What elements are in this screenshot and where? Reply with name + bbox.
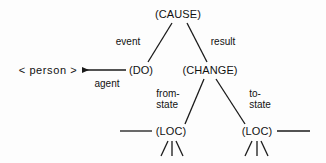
tick-loc-from-left (161, 141, 168, 156)
node-person: < person > (19, 64, 78, 76)
edge-label-to-state: to- state (249, 88, 271, 110)
edge-layer (0, 0, 326, 163)
edge-label-to-state-line2: state (249, 99, 271, 110)
edge-label-to-state-line1: to- (249, 88, 271, 99)
edge-label-from-state-line1: from- (156, 88, 179, 99)
node-cause: (CAUSE) (155, 8, 201, 20)
node-do: (DO) (129, 64, 153, 76)
tick-loc-from-right (176, 141, 183, 156)
edge-label-result-text: result (211, 36, 235, 47)
node-do-label: (DO) (129, 64, 153, 76)
edge-change-loc-to (216, 79, 245, 124)
edge-label-agent-text: agent (94, 78, 119, 89)
edge-cause-do (148, 23, 172, 62)
node-person-label: < person > (19, 64, 78, 76)
node-loc-from: (LOC) (156, 125, 186, 137)
edge-label-from-state-line2: state (156, 99, 179, 110)
edge-label-event-text: event (116, 36, 140, 47)
edge-label-agent: agent (94, 78, 119, 89)
node-cause-label: (CAUSE) (155, 8, 201, 20)
tick-loc-to-right (261, 141, 268, 156)
node-change-label: (CHANGE) (182, 64, 237, 76)
node-loc-to-label: (LOC) (242, 125, 272, 137)
edge-change-loc-from (185, 79, 204, 124)
conceptual-dependency-diagram: (CAUSE) (DO) (CHANGE) < person > (LOC) (… (0, 0, 326, 163)
node-change: (CHANGE) (182, 64, 237, 76)
tick-loc-to-left (245, 141, 252, 156)
edge-label-event: event (116, 36, 140, 47)
edge-label-result: result (211, 36, 235, 47)
edge-label-from-state: from- state (156, 88, 179, 110)
node-loc-from-label: (LOC) (156, 125, 186, 137)
node-loc-to: (LOC) (242, 125, 272, 137)
edge-cause-change (187, 23, 207, 62)
